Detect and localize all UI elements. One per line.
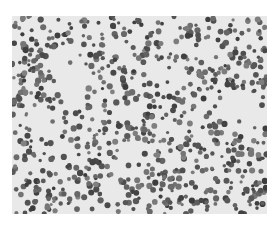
cell-field <box>12 16 267 214</box>
microscopy-image <box>12 16 267 214</box>
